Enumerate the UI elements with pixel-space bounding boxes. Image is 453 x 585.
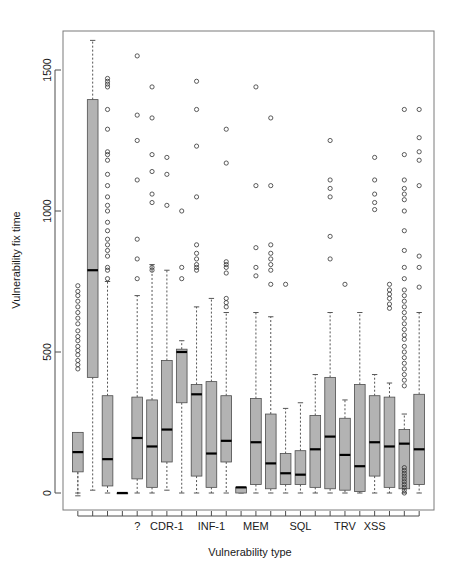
boxplot-box [117,493,128,494]
x-axis-tick-label: XSS [364,520,386,532]
box-rect [206,382,217,488]
x-axis-tick-label: MEM [243,520,269,532]
chart-root: 050010001500 ?CDR-1INF-1MEMSQLTRVXSS Vul… [0,0,453,585]
boxplot-box [236,487,247,493]
x-axis-tick-label: CDR-1 [150,520,184,532]
box-rect [191,384,202,476]
box-rect [102,396,113,486]
y-axis-tick-label: 1000 [41,199,53,223]
y-axis-tick-label: 500 [41,343,53,361]
box-rect [369,396,380,476]
box-rect [295,451,306,485]
y-axis-tick-label: 1500 [41,58,53,82]
box-rect [162,360,173,462]
chart-background [0,0,453,585]
x-axis-tick-label: TRV [334,520,356,532]
boxplot-chart: 050010001500 ?CDR-1INF-1MEMSQLTRVXSS Vul… [0,0,453,585]
box-rect [384,397,395,487]
x-axis-tick-label: ? [134,520,140,532]
x-axis-title: Vulnerability type [208,546,291,558]
box-rect [354,384,365,491]
boxplot-box [384,383,395,493]
box-rect [310,415,321,487]
box-rect [147,400,158,487]
box-rect [265,414,276,489]
box-rect [280,454,291,485]
box-rect [325,377,336,488]
box-rect [176,349,187,403]
box-rect [414,394,425,484]
box-rect [221,396,232,462]
box-rect [87,100,98,378]
y-axis-title: Vulnerability fix time [10,211,22,308]
x-axis-tick-label: INF-1 [198,520,226,532]
x-axis-tick-label: SQL [289,520,311,532]
y-axis-tick-label: 0 [41,490,53,496]
